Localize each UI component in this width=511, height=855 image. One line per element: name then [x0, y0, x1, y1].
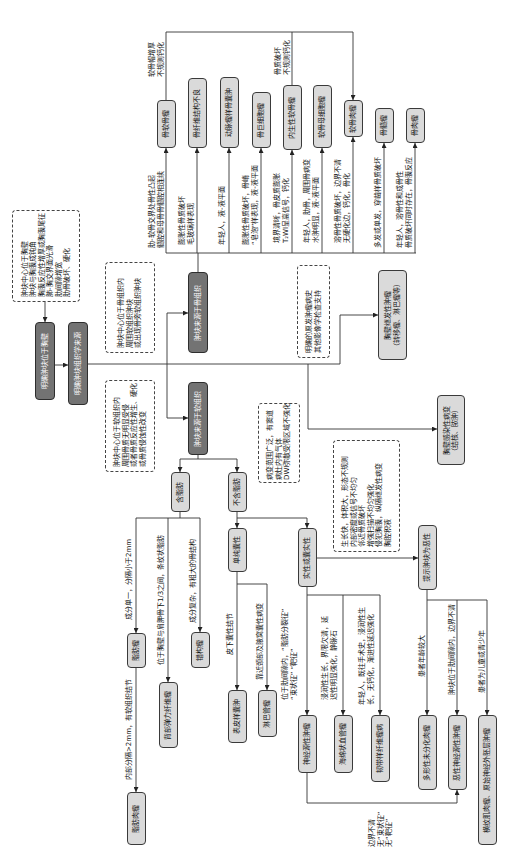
locate-chest-wall-node: 明确肿块位于胸壁: [35, 322, 55, 400]
infection-criteria-note: 病变范围广泛，有窦道 病灶内有气体 DWI弥散受限区域不强化: [258, 403, 300, 483]
malignant-hint-node: 提示肿块为恶性: [418, 525, 437, 590]
feature-label: 患者年龄较大: [418, 635, 427, 677]
bone-origin-criteria-note: 肿块中心位于骨组织内 周围软组织肿块 或出现骨旁软组织肿块: [105, 262, 155, 353]
soft-tumor-rhabdomyosarcoma-pnet: 横纹肌肉瘤、原始神经外胚层肿瘤: [478, 715, 497, 845]
feature-label: 浸润性生长，界限欠清，延 迟性明显强化，静脉石: [321, 616, 338, 700]
link-label: 骨质破坏 不规则钙化: [274, 40, 291, 75]
link-label: 边界不清 无“束状征” 无“靶征”: [368, 812, 394, 847]
feature-label: 患者为儿童或青少年: [478, 630, 487, 693]
secondary-criteria-note: 明确的原发肿瘤病史 其他影像学检查支持: [297, 265, 330, 358]
feature-label: 年轻人，溶骨性和成骨性 骨质破坏同时存在，骨膜反应: [396, 157, 413, 248]
soft-origin-node: 肿块来源于软组织: [188, 382, 208, 455]
infection-node: 胸壁感染性病变 （结核、脓肿）: [437, 395, 465, 465]
soft-tumor-epidermoid-cyst: 表皮样囊肿: [228, 690, 247, 743]
feature-label: 年轻人，肋骨，周围骨病变 水肿明显，液-液平面: [303, 159, 320, 243]
bone-tumor-osteochondroma: 骨软骨瘤: [157, 100, 176, 148]
soft-origin-criteria-note: 肿块中心位于软组织内 周围骨质无明显受侵 或者骨质反应性增生、硬化 或骨质侵蚀性…: [105, 380, 155, 472]
fat-containing-node: 含脂肪: [171, 472, 190, 512]
feature-label: 肋-软骨交界处骨性凸起 髓腔和母骨骨髓腔相连续: [148, 171, 165, 248]
soft-tumor-malignant-neurogenic: 恶性神经源性肿瘤: [448, 715, 467, 790]
feature-label: 内部分隔>2mm，有软组织结节: [125, 679, 134, 780]
soft-tumor-hemangioma: 海绵状血管瘤: [334, 715, 353, 773]
solid-cystic-node: 实性或囊实性: [298, 528, 317, 587]
bone-tumor-aneurysmal-bone-cyst: 动脉瘤样骨囊肿: [220, 77, 239, 148]
feature-label: 肿块位于肋间隙内，边界不清: [448, 604, 457, 695]
soft-tumor-lipoma: 脂肪瘤: [127, 633, 146, 668]
bone-tumor-osteosarcoma: 骨肉瘤: [406, 108, 425, 143]
secondary-tumor-node: 胸壁继发性肿瘤 （转移瘤、淋巴瘤等）: [378, 270, 407, 360]
feature-label: 溶骨性骨质破坏，边界不清 无硬化边，钙化，骨化: [334, 159, 351, 243]
soft-tumor-elastofibroma: 背部弹力纤维瘤: [159, 682, 178, 748]
non-fat-node: 不含脂肪: [228, 472, 247, 512]
link-label: 软骨帽增厚 不规则钙化: [148, 42, 165, 77]
feature-label: 皮下囊性结节: [226, 613, 235, 655]
soft-tumor-desmoid: 韧带样纤维瘤病: [371, 715, 390, 782]
feature-label: 年轻人，液-液平面: [218, 186, 227, 245]
feature-label: 成分复杂，有粗大的骨结构: [189, 539, 198, 623]
bone-tumor-myeloma: 骨髓瘤: [375, 108, 394, 143]
feature-label: 靠近颈部及腋窝囊性病变: [256, 603, 265, 680]
soft-tumor-hamartoma: 错构瘤: [191, 632, 210, 668]
feature-label: 成分单一，分隔小于2mm: [125, 539, 134, 620]
soft-tumor-ups: 多形性未分化肉瘤: [418, 715, 437, 790]
flowchart-canvas: 肿块中心位于胸壁 肿块与胸膜成钝角 胸膜反应性增厚或胸膜尾征 肺-胸交界面光滑 …: [0, 0, 511, 855]
bone-tumor-chondrosarcoma: 软骨肉瘤: [344, 100, 363, 137]
bone-tumor-chondroblastoma: 软骨母细胞瘤: [313, 85, 332, 148]
feature-label: 年轻人，既往手术史，浸润性生 长，无钙化，渐进性延迟强化: [358, 607, 375, 705]
malignant-criteria-note: 生长快，体积大，形态不规则 内部密度或信号不均匀 邻近骨质破坏 增强扫描不均匀强…: [333, 440, 400, 552]
feature-label: 位于胸壁与肩胛骨下1/3之间，条纹状脂肪: [157, 535, 166, 665]
feature-label: 位于肋间隙内，“脂肪分裂征” “束状征” “靶征”: [281, 609, 298, 700]
soft-tumor-liposarcoma: 脂肪肉瘤: [127, 792, 146, 845]
bone-tumor-enchondroma: 内生性软骨瘤: [283, 85, 302, 150]
bone-origin-node: 肿块来源于骨组织: [188, 272, 208, 353]
soft-tumor-neurogenic: 神经源性肿瘤: [298, 715, 317, 773]
feature-label: 境界清晰，骨皮质膨胀 T₂WI呈高信号，钙化: [273, 173, 290, 243]
histologic-origin-node: 明确肿块组织学来源: [68, 322, 88, 405]
chest-wall-criteria-note: 肿块中心位于胸壁 肿块与胸膜成钝角 胸膜反应性增厚或胸膜尾征 肺-胸交界面光滑 …: [12, 210, 80, 302]
feature-label: 膨胀性骨质破坏，骨嵴 “皂泡”样表现，液-液平面: [242, 165, 259, 245]
feature-label: 膨胀性骨质破坏 毛玻璃样表现: [178, 196, 195, 245]
feature-label: 多发或单发，穿凿样骨质破坏: [374, 157, 383, 248]
bone-tumor-giant-cell: 骨巨细胞瘤: [252, 92, 271, 148]
soft-tumor-lymphangioma: 淋巴管瘤: [258, 690, 277, 737]
simple-cystic-node: 单纯囊性: [228, 528, 247, 572]
bone-tumor-fibrous-dysplasia: 骨纤维结构不良: [188, 78, 207, 148]
